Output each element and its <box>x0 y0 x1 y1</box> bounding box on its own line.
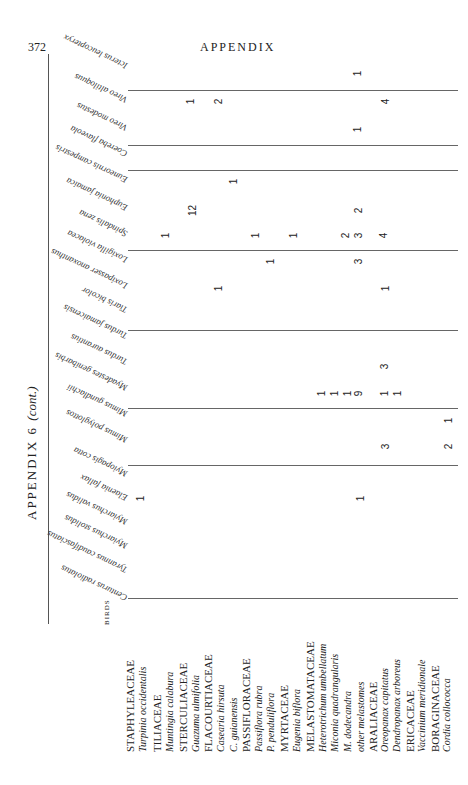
plant-species-label: Oreopanax capitatus <box>379 668 390 752</box>
plant-family-label: STAPHYLEACEAE <box>124 660 136 752</box>
plant-species-label: Heterotrichum umbellatum <box>317 644 328 752</box>
plant-species-label: Vaccinium meridionale <box>416 660 427 752</box>
bird-column-header: Icterus leucopteryx <box>62 33 129 70</box>
table-cell-value: 2 <box>353 204 364 218</box>
plant-family-label: MYRTACEAE <box>278 685 290 752</box>
bird-column-header: Vireo modestus <box>75 101 128 132</box>
table-cell-value: 1 <box>355 492 366 506</box>
plant-species-label: Turpinia occidentalis <box>137 667 148 752</box>
table-title-text: APPENDIX 6 <box>24 426 39 520</box>
plant-family-label: MELASTOMATACEAE <box>304 641 316 752</box>
table-cell-value: 1 <box>316 387 327 401</box>
table-cell-value: 3 <box>379 360 390 374</box>
plant-species-label: Cordia collococca <box>441 678 452 752</box>
table-cell-value: 1 <box>352 67 363 81</box>
birds-caption: BIRDS <box>103 599 111 625</box>
table-cell-value: 1 <box>213 282 224 296</box>
table-cell-value: 1 <box>392 387 403 401</box>
table-cell-value: 1 <box>380 282 391 296</box>
running-header: APPENDIX <box>200 40 275 55</box>
table-cell-value: 12 <box>187 204 198 218</box>
group-divider <box>128 465 458 466</box>
bird-column-header: Vireo altiloquus <box>73 72 129 104</box>
plant-family-label: TILIACEAE <box>151 695 163 752</box>
table-cell-value: 1 <box>329 387 340 401</box>
group-divider <box>128 145 458 146</box>
table-cell-value: 1 <box>228 175 239 189</box>
table-cell-value: 2 <box>443 440 454 454</box>
table-cell-value: 1 <box>352 123 363 137</box>
table-title-suffix: (cont.) <box>24 386 39 420</box>
table-cell-value: 2 <box>213 95 224 109</box>
table-cell-value: 1 <box>185 95 196 109</box>
group-divider <box>128 90 458 91</box>
table-cell-value: 1 <box>135 492 146 506</box>
table-cell-value: 1 <box>288 229 299 243</box>
plant-species-label: C. guianensis <box>228 698 239 752</box>
plant-family-label: PASSIFLORACEAE <box>240 658 252 752</box>
plant-species-label: Passiflora rubra <box>253 686 264 752</box>
table-cell-value: 1 <box>250 229 261 243</box>
plant-family-label: ARALIACEAE <box>367 682 379 752</box>
plant-species-label: Dendropanax arboreus <box>391 659 402 752</box>
table-cell-value: 1 <box>265 255 276 269</box>
table-cell-value: 9 <box>353 387 364 401</box>
table-cell-value: 1 <box>342 387 353 401</box>
table-cell-value: 1 <box>379 387 390 401</box>
table-cell-value: 1 <box>160 229 171 243</box>
plant-family-label: BORAGINACEAE <box>429 665 441 752</box>
group-divider <box>128 408 458 409</box>
plant-family-label: ERICACEAE <box>404 690 416 752</box>
table-cell-value: 2 <box>340 229 351 243</box>
plant-species-label: Guazuma ulmifolia <box>190 675 201 752</box>
table-cell-value: 4 <box>378 229 389 243</box>
group-divider <box>128 250 458 251</box>
table-cell-value: 3 <box>353 255 364 269</box>
table-cell-value: 3 <box>353 229 364 243</box>
group-divider <box>128 598 458 599</box>
bird-column-header: Myiopagis cotta <box>72 445 129 478</box>
plant-species-label: Miconia quadrangularis <box>329 654 340 752</box>
table-title: APPENDIX 6 (cont.) <box>24 290 44 520</box>
plant-family-label: FLACOURTIACEAE <box>202 654 214 752</box>
plant-family-label: STERCULIACEAE <box>177 663 189 752</box>
table-cell-value: 3 <box>380 440 391 454</box>
group-divider <box>128 330 458 331</box>
group-divider <box>128 170 458 171</box>
plant-species-label: M. dodecandra <box>342 691 353 752</box>
bird-column-header: Spindalis zena <box>78 208 129 238</box>
plant-species-label: Casearia hirsuta <box>215 684 226 752</box>
plant-species-label: Muntingia calabura <box>164 672 175 752</box>
table-cell-value: 1 <box>443 414 454 428</box>
plant-species-label: other melastomes <box>355 682 366 752</box>
plant-species-label: P. penduliflora <box>265 693 276 752</box>
table-cell-value: 4 <box>380 95 391 109</box>
page-number: 372 <box>28 40 46 55</box>
plant-species-label: Eugenia biflora <box>291 689 302 752</box>
